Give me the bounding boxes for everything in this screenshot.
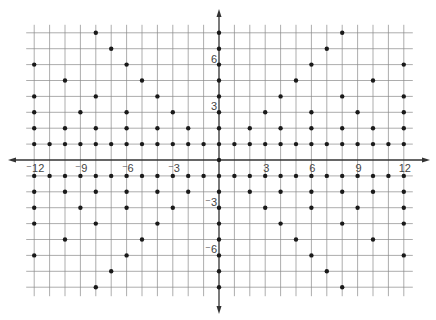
data-point [94, 221, 98, 225]
data-point [248, 126, 252, 130]
data-point [340, 285, 344, 289]
data-point [248, 142, 252, 146]
data-point [140, 78, 144, 82]
data-point [278, 94, 282, 98]
data-point [217, 126, 221, 130]
data-point [32, 253, 36, 257]
y-tick-label: ⁻6 [205, 243, 217, 255]
data-point [140, 237, 144, 241]
data-point [78, 142, 82, 146]
data-point [217, 253, 221, 257]
data-point [47, 174, 51, 178]
data-point [309, 126, 313, 130]
data-point [263, 110, 267, 114]
data-point [78, 174, 82, 178]
x-axis-right-arrow-icon [422, 158, 430, 163]
data-point [217, 221, 221, 225]
data-point [402, 190, 406, 194]
data-point [63, 190, 67, 194]
divisibility-scatter-chart: ⁻12⁻9⁻6⁻336912 63⁻3⁻6 [0, 0, 436, 320]
x-tick-label: 12 [399, 162, 411, 174]
data-point [386, 174, 390, 178]
data-point [340, 190, 344, 194]
data-point [340, 94, 344, 98]
y-tick-label: ⁻3 [205, 196, 217, 208]
data-point [325, 269, 329, 273]
data-point [294, 174, 298, 178]
data-point [309, 190, 313, 194]
x-tick-label: 6 [309, 162, 315, 174]
data-point [232, 174, 236, 178]
data-point [217, 62, 221, 66]
data-point [94, 94, 98, 98]
data-point [340, 31, 344, 35]
data-point [278, 174, 282, 178]
data-point [278, 221, 282, 225]
data-point [140, 142, 144, 146]
data-point [217, 237, 221, 241]
data-point [186, 190, 190, 194]
y-tick-label: 3 [211, 100, 217, 112]
x-tick-label: ⁻6 [122, 162, 134, 174]
data-point [155, 126, 159, 130]
data-point [371, 237, 375, 241]
data-point [63, 237, 67, 241]
data-point [217, 158, 221, 162]
data-point [278, 190, 282, 194]
data-point [309, 253, 313, 257]
data-point [109, 269, 113, 273]
data-point [371, 142, 375, 146]
data-point [340, 174, 344, 178]
data-point [32, 221, 36, 225]
data-point [171, 110, 175, 114]
data-point [294, 237, 298, 241]
data-point [94, 190, 98, 194]
y-axis-down-arrow-icon [217, 306, 222, 314]
data-point [294, 142, 298, 146]
data-point [32, 206, 36, 210]
data-point [263, 142, 267, 146]
data-point [217, 31, 221, 35]
data-point [309, 174, 313, 178]
data-point [355, 206, 359, 210]
data-point [155, 142, 159, 146]
data-point [402, 94, 406, 98]
y-tick-label: 6 [211, 53, 217, 65]
data-point [309, 110, 313, 114]
x-tick-label: 3 [263, 162, 269, 174]
data-point [402, 126, 406, 130]
data-point [109, 47, 113, 51]
data-point [186, 174, 190, 178]
data-point [201, 142, 205, 146]
data-point [263, 206, 267, 210]
data-point [94, 142, 98, 146]
data-point [94, 174, 98, 178]
data-point [155, 190, 159, 194]
data-point [155, 221, 159, 225]
data-point [63, 126, 67, 130]
data-point [371, 190, 375, 194]
data-point [325, 47, 329, 51]
data-point [278, 126, 282, 130]
data-point [124, 62, 128, 66]
data-point [278, 142, 282, 146]
data-point [155, 174, 159, 178]
data-point [355, 174, 359, 178]
data-point [294, 78, 298, 82]
data-point [217, 190, 221, 194]
data-point [124, 253, 128, 257]
data-point [32, 94, 36, 98]
data-point [217, 94, 221, 98]
data-point [186, 142, 190, 146]
data-point [171, 206, 175, 210]
data-point [402, 174, 406, 178]
y-axis-up-arrow-icon [217, 9, 222, 17]
data-point [124, 126, 128, 130]
x-tick-label: ⁻3 [168, 162, 180, 174]
data-point [78, 206, 82, 210]
data-point [371, 174, 375, 178]
data-point [217, 142, 221, 146]
data-point [124, 142, 128, 146]
data-point [402, 110, 406, 114]
data-point [402, 62, 406, 66]
